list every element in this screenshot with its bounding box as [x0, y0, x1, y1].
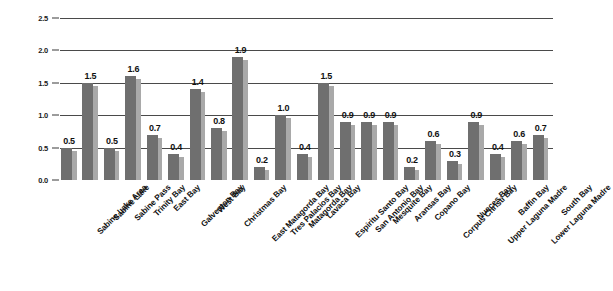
bar-front	[383, 122, 394, 180]
bar-shadow	[201, 92, 206, 180]
x-axis-category-label: Christmas Bay	[243, 183, 289, 229]
bar-value-label: 0.2	[399, 155, 425, 165]
bar-shadow	[479, 125, 484, 180]
bar-series: 0.51.50.51.60.70.41.40.81.90.21.00.41.50…	[60, 18, 553, 180]
bar-shadow	[243, 60, 248, 180]
y-axis-tick-mark	[52, 18, 59, 19]
y-axis-tick-label: 2.0	[22, 46, 48, 55]
bar-front	[211, 128, 222, 180]
bar-front	[82, 83, 93, 180]
y-axis-tick-label: 1.5	[22, 78, 48, 87]
bar-front	[533, 135, 544, 180]
y-axis-tick-mark	[52, 115, 59, 116]
y-axis-tick-label: 1.0	[22, 111, 48, 120]
bar-value-label: 0.4	[292, 142, 318, 152]
bar-front	[511, 141, 522, 180]
bar-value-label: 0.2	[249, 155, 275, 165]
bar-value-label: 1.6	[120, 64, 146, 74]
bar-shadow	[158, 138, 163, 180]
bar-shadow	[351, 125, 356, 180]
bar-value-label: 0.4	[163, 142, 189, 152]
bar-front	[297, 154, 308, 180]
bar-shadow	[308, 157, 313, 180]
y-axis-tick-mark	[52, 180, 59, 181]
y-axis-tick-mark	[52, 147, 59, 148]
y-axis-tick-mark	[52, 82, 59, 83]
bar-front	[340, 122, 351, 180]
bar-value-label: 0.9	[378, 110, 404, 120]
bar-shadow	[394, 125, 399, 180]
bar-shadow	[115, 151, 120, 180]
bar-value-label: 1.9	[227, 45, 253, 55]
bar-front	[190, 89, 201, 180]
y-axis-tick-label: 0.5	[22, 143, 48, 152]
bar-front	[61, 148, 72, 180]
bar-shadow	[501, 157, 506, 180]
bar-front	[318, 83, 329, 180]
bar-value-label: 0.7	[142, 123, 168, 133]
bar-shadow	[329, 86, 334, 180]
bar-shadow	[222, 131, 227, 180]
bar-shadow	[93, 86, 98, 180]
bar-value-label: 0.7	[528, 123, 554, 133]
bar-shadow	[179, 157, 184, 180]
bar-shadow	[265, 170, 270, 180]
y-axis-tick-label: 2.5	[22, 14, 48, 23]
bar-shadow	[415, 170, 420, 180]
x-axis-category-label: West Bay	[215, 183, 247, 215]
bar-front	[104, 148, 115, 180]
bar-front	[168, 154, 179, 180]
bar-shadow	[544, 138, 549, 180]
bar-value-label: 1.5	[77, 71, 103, 81]
bar-value-label: 0.5	[56, 136, 82, 146]
bar-value-label: 1.5	[313, 71, 339, 81]
bar-value-label: 0.9	[463, 110, 489, 120]
bar-front	[447, 161, 458, 180]
bar-shadow	[286, 118, 291, 180]
x-axis-labels: Sabine Lake AreaSabine LakeSabine PassTr…	[0, 183, 580, 291]
bar-front	[147, 135, 158, 180]
bar-shadow	[72, 151, 77, 180]
bar-front	[404, 167, 415, 180]
bar-shadow	[372, 125, 377, 180]
bar-value-label: 1.0	[270, 103, 296, 113]
bar-value-label: 0.3	[442, 149, 468, 159]
x-axis-category-label: Nueces Bay	[475, 183, 513, 221]
bar-front	[425, 141, 436, 180]
bar-front	[275, 115, 286, 180]
bar-front	[125, 76, 136, 180]
bar-front	[361, 122, 372, 180]
bar-value-label: 0.5	[99, 136, 125, 146]
bar-shadow	[458, 164, 463, 180]
bar-value-label: 0.6	[420, 129, 446, 139]
bar-front	[468, 122, 479, 180]
bar-value-label: 1.4	[185, 77, 211, 87]
bar-value-label: 0.4	[485, 142, 511, 152]
bar-value-label: 0.8	[206, 116, 232, 126]
bar-front	[232, 57, 243, 180]
bar-shadow	[436, 144, 441, 180]
bar-shadow	[522, 144, 527, 180]
y-axis-tick-mark	[52, 50, 59, 51]
bar-front	[254, 167, 265, 180]
bar-shadow	[136, 79, 141, 180]
bar-front	[490, 154, 501, 180]
